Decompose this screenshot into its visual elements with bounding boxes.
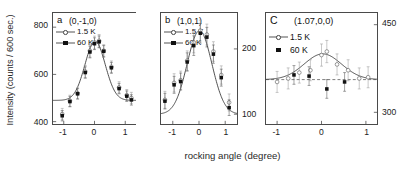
series-filled-square bbox=[163, 23, 231, 115]
y-tick-label: 300 bbox=[382, 107, 396, 117]
x-tick-label: 0 bbox=[84, 127, 104, 137]
series-open-circle bbox=[275, 40, 370, 92]
panel-a-plot-area bbox=[53, 13, 136, 124]
series-open-circle bbox=[163, 20, 231, 111]
y-tick-label: 200 bbox=[242, 43, 256, 53]
x-tick-label: -1 bbox=[162, 127, 182, 137]
x-tick-label: -1 bbox=[53, 127, 73, 137]
panel-c: C (1.07,0,0) 1.5 K 60 K bbox=[265, 12, 378, 125]
figure-root: Intensity (counts / 600 sec.) a (0,-1,0)… bbox=[0, 0, 415, 170]
series-filled-square bbox=[60, 36, 133, 121]
x-tick-label: -1 bbox=[266, 127, 286, 137]
y-tick-label: 800 bbox=[22, 20, 48, 30]
x-tick-label: 1 bbox=[115, 127, 135, 137]
x-axis-label: rocking angle (degree) bbox=[150, 150, 315, 161]
y-axis-label: Intensity (counts / 600 sec.) bbox=[2, 0, 18, 140]
x-tick-label: 0 bbox=[312, 127, 332, 137]
y-tick-label: 100 bbox=[242, 109, 256, 119]
y-tick-label: 400 bbox=[22, 117, 48, 127]
panel-c-plot-svg bbox=[266, 13, 377, 124]
panel-a: a (0,-1,0) 1.5 K 60 K bbox=[52, 12, 136, 125]
panel-c-plot-area bbox=[266, 13, 377, 124]
x-tick-label: 1 bbox=[216, 127, 236, 137]
panel-b: b (1,0,1) 1.5 K 60 K bbox=[160, 12, 238, 125]
y-axis-label-text: Intensity (counts / 600 sec.) bbox=[5, 15, 15, 126]
panel-b-plot-svg bbox=[161, 13, 237, 124]
series-filled-square bbox=[292, 66, 346, 99]
y-tick-label: 450 bbox=[382, 18, 396, 28]
x-tick-label: 0 bbox=[189, 127, 209, 137]
panel-a-plot-svg bbox=[53, 13, 136, 124]
y-tick-label: 600 bbox=[22, 69, 48, 79]
x-tick-label: 1 bbox=[357, 127, 377, 137]
panel-b-plot-area bbox=[161, 13, 237, 124]
